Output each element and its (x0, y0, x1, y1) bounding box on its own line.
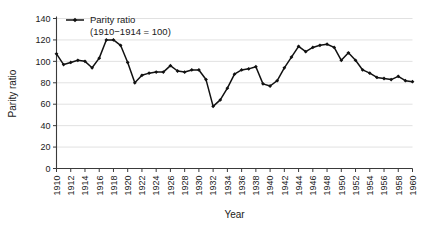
x-tick-label: 1958 (394, 176, 404, 196)
x-tick-label: 1950 (337, 176, 347, 196)
x-tick-label: 1948 (322, 176, 332, 196)
x-tick-label: 1930 (194, 176, 204, 196)
x-tick-label: 1960 (408, 176, 418, 196)
x-tick-label: 1922 (137, 176, 147, 196)
data-point-marker (382, 77, 386, 81)
y-tick-label: 60 (40, 99, 50, 109)
x-tick-label: 1920 (123, 176, 133, 196)
y-tick-label: 40 (40, 121, 50, 131)
x-tick-label: 1940 (265, 176, 275, 196)
y-tick-label: 20 (40, 142, 50, 152)
x-tick-label: 1936 (237, 176, 247, 196)
y-tick-label: 80 (40, 78, 50, 88)
x-tick-label: 1912 (66, 176, 76, 196)
y-tick-label: 140 (35, 14, 50, 24)
x-tick-label: 1914 (80, 176, 90, 196)
data-point-marker (154, 70, 158, 74)
x-tick-label: 1944 (294, 176, 304, 196)
data-point-marker (183, 70, 187, 74)
x-tick-label: 1954 (365, 176, 375, 196)
data-point-marker (247, 67, 251, 71)
y-axis-label: Parity ratio (7, 69, 18, 117)
x-tick-label: 1952 (351, 176, 361, 196)
data-point-marker (318, 43, 322, 47)
x-tick-label: 1932 (208, 176, 218, 196)
data-point-marker (147, 71, 151, 75)
x-tick-label: 1938 (251, 176, 261, 196)
y-tick-label: 120 (35, 35, 50, 45)
x-tick-label: 1956 (379, 176, 389, 196)
y-tick-label: 0 (45, 164, 50, 174)
y-axis-ticks: 020406080100120140 (35, 14, 56, 174)
series-markers (55, 38, 415, 108)
x-tick-label: 1946 (308, 176, 318, 196)
x-tick-label: 1934 (223, 176, 233, 196)
x-axis-label: Year (224, 209, 245, 220)
chart-legend: Parity ratio (1910−1914 = 100) (66, 14, 171, 36)
parity-ratio-chart: 020406080100120140 191019121914191619181… (0, 0, 424, 230)
data-point-marker (190, 68, 194, 72)
legend-label-base-period: (1910−1914 = 100) (90, 26, 171, 37)
gridlines (57, 19, 413, 148)
x-tick-label: 1928 (180, 176, 190, 196)
y-tick-label: 100 (35, 57, 50, 67)
x-axis-ticks: 1910191219141916191819201922192419261928… (52, 169, 418, 196)
x-tick-label: 1910 (52, 176, 62, 196)
legend-label-parity-ratio: Parity ratio (90, 14, 135, 25)
x-tick-label: 1942 (280, 176, 290, 196)
chart-canvas: 020406080100120140 191019121914191619181… (0, 0, 424, 230)
x-tick-label: 1916 (95, 176, 105, 196)
data-point-marker (104, 38, 108, 42)
x-tick-label: 1924 (151, 176, 161, 196)
x-tick-label: 1918 (109, 176, 119, 196)
x-tick-label: 1926 (166, 176, 176, 196)
